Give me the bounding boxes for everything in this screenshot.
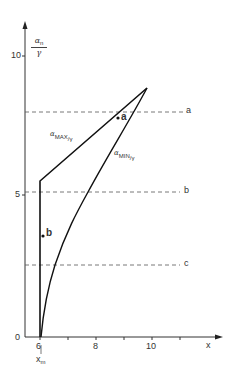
- xm-label: xm: [36, 355, 46, 365]
- x-tick-label-8: 8: [93, 342, 98, 351]
- series-label-alpha-min: αMIN/γ: [114, 150, 134, 161]
- point-a-marker: [116, 116, 119, 119]
- x-axis-label: x: [206, 341, 211, 350]
- x-axis-arrow-icon: [215, 335, 223, 340]
- point-b-label: b: [46, 228, 52, 238]
- reference-label-b: b: [184, 186, 189, 195]
- series-label-alpha-max: αMAX/γ: [50, 131, 72, 142]
- point-b-marker: [41, 234, 44, 237]
- y-tick-label-5: 5: [15, 190, 20, 199]
- y-tick-label-0: 0: [15, 333, 20, 342]
- reference-label-a: a: [186, 106, 191, 115]
- y-label-gamma: γ: [31, 48, 47, 57]
- y-axis-label: αn γ: [31, 36, 47, 57]
- reference-label-c: c: [184, 259, 189, 268]
- series-alpha-max: [40, 88, 147, 337]
- point-a-label: a: [121, 112, 127, 122]
- y-tick-label-10: 10: [11, 51, 21, 60]
- chart-canvas: [0, 0, 233, 387]
- series-alpha-min: [41, 88, 147, 337]
- y-axis-arrow-icon: [23, 21, 28, 29]
- x-tick-label-6: 6: [36, 342, 41, 351]
- x-tick-label-10: 10: [146, 342, 156, 351]
